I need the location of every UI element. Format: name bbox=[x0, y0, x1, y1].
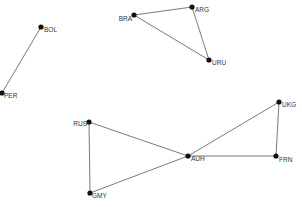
node-dot bbox=[276, 99, 281, 104]
node-bra: BRA bbox=[119, 12, 137, 22]
edge-bra-arg bbox=[134, 7, 192, 15]
edge-auh-ukg bbox=[188, 102, 279, 156]
edge-arg-uru bbox=[192, 7, 209, 60]
node-dot bbox=[206, 57, 211, 62]
node-label: UKG bbox=[282, 101, 296, 108]
node-uru: URU bbox=[206, 57, 226, 66]
node-label: FRN bbox=[279, 156, 293, 163]
node-label: BRA bbox=[119, 15, 133, 22]
node-label: RUS bbox=[73, 120, 87, 127]
node-label: BOL bbox=[44, 26, 57, 33]
node-ukg: UKG bbox=[276, 99, 296, 108]
node-label: ARG bbox=[195, 6, 209, 13]
node-dot bbox=[131, 12, 136, 17]
node-per: PER bbox=[0, 90, 18, 99]
node-label: GMY bbox=[92, 192, 107, 199]
node-gmy: GMY bbox=[87, 190, 107, 199]
node-arg: ARG bbox=[189, 4, 209, 13]
edge-ukg-frn bbox=[276, 102, 279, 156]
edge-bol-per bbox=[2, 27, 41, 93]
node-auh: AUH bbox=[185, 153, 205, 162]
node-label: URU bbox=[212, 59, 226, 66]
node-label: AUH bbox=[191, 155, 205, 162]
edge-rus-gmy bbox=[89, 122, 90, 193]
edge-gmy-auh bbox=[90, 156, 188, 193]
edges-layer bbox=[2, 7, 279, 193]
node-dot bbox=[86, 119, 91, 124]
node-bol: BOL bbox=[38, 24, 57, 33]
edge-bra-uru bbox=[134, 15, 209, 60]
node-dot bbox=[185, 153, 190, 158]
network-graph: BOLPERBRAARGURURUSGMYAUHUKGFRN bbox=[0, 0, 302, 207]
node-dot bbox=[38, 24, 43, 29]
node-dot bbox=[189, 4, 194, 9]
nodes-layer: BOLPERBRAARGURURUSGMYAUHUKGFRN bbox=[0, 4, 296, 199]
node-label: PER bbox=[4, 92, 18, 99]
node-dot bbox=[273, 153, 278, 158]
node-frn: FRN bbox=[273, 153, 292, 163]
edge-rus-auh bbox=[89, 122, 188, 156]
